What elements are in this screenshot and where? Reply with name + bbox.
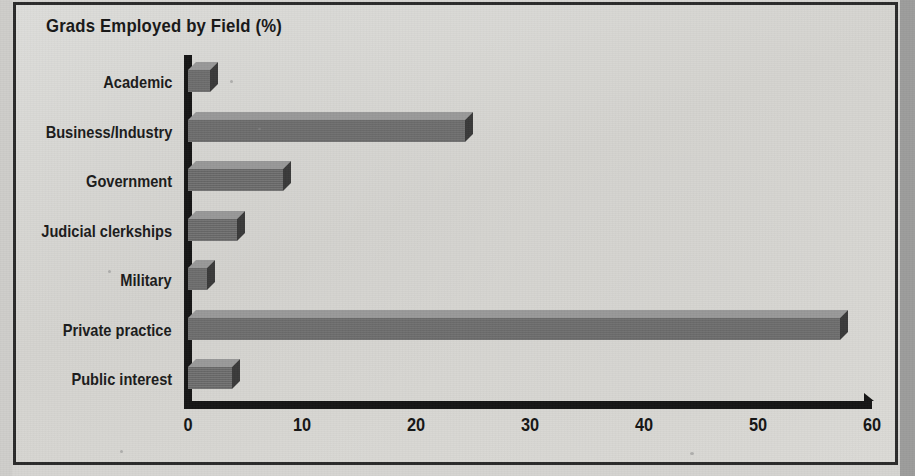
bar-front-face <box>188 219 237 241</box>
category-label-academic: Academic <box>103 73 172 93</box>
scan-speck <box>120 450 123 453</box>
bar-public-interest <box>188 359 232 381</box>
category-label-business-industry: Business/Industry <box>45 123 172 143</box>
category-label-government: Government <box>86 172 172 192</box>
bar-business-industry <box>188 112 465 134</box>
category-label-military: Military <box>121 271 172 291</box>
category-label-private-practice: Private practice <box>63 321 172 341</box>
x-tick-20: 20 <box>407 414 425 436</box>
scan-speck <box>230 80 233 83</box>
bar-side-face <box>207 260 215 290</box>
bar-military <box>188 260 207 282</box>
scan-speck <box>690 452 694 455</box>
bar-front-face <box>188 318 840 340</box>
bar-government <box>188 161 283 183</box>
bar-chart-plot-area: AcademicBusiness/IndustryGovernmentJudic… <box>0 0 915 476</box>
bar-academic <box>188 62 210 84</box>
bar-top-face <box>188 211 245 219</box>
bar-front-face <box>188 268 207 290</box>
category-label-public-interest: Public interest <box>71 370 172 390</box>
scan-speck <box>108 270 111 273</box>
x-axis-line <box>184 401 872 409</box>
bar-private-practice <box>188 310 840 332</box>
bar-front-face <box>188 367 232 389</box>
x-tick-60: 60 <box>863 414 881 436</box>
bar-side-face <box>232 359 240 389</box>
x-tick-0: 0 <box>183 414 192 436</box>
category-label-judicial-clerkships: Judicial clerkships <box>41 222 172 242</box>
bar-top-face <box>188 310 848 318</box>
bar-front-face <box>188 120 465 142</box>
bar-judicial-clerkships <box>188 211 237 233</box>
x-tick-50: 50 <box>749 414 767 436</box>
bar-top-face <box>188 161 291 169</box>
bar-front-face <box>188 169 283 191</box>
bar-top-face <box>188 112 473 120</box>
x-axis-arrow-tip <box>864 393 874 401</box>
scan-speck <box>258 128 261 130</box>
x-tick-40: 40 <box>635 414 653 436</box>
x-tick-30: 30 <box>521 414 539 436</box>
x-tick-10: 10 <box>293 414 311 436</box>
bar-front-face <box>188 70 210 92</box>
